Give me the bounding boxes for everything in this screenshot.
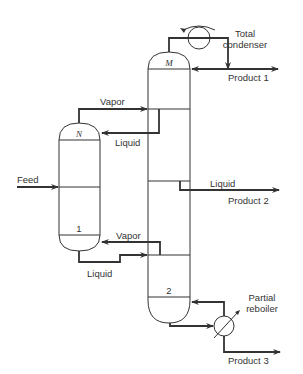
stage-m-label: M (164, 58, 173, 68)
vapor-bottom-stream (102, 242, 160, 255)
feed-label: Feed (17, 174, 39, 185)
liquid-top-label: Liquid (115, 137, 140, 148)
stage-2-label: 2 (166, 285, 171, 296)
vapor-top-label: Vapor (100, 96, 125, 107)
reboiler-label-2: reboiler (246, 303, 278, 314)
product2-label: Product 2 (228, 195, 269, 206)
distillation-diagram: Total condenser Product 1 M Vapor Liquid… (0, 0, 303, 374)
stage-n-label: N (75, 129, 83, 139)
liquid-side-label: Liquid (210, 178, 235, 189)
product1-label: Product 1 (228, 72, 269, 83)
reboiler-label-1: Partial (249, 292, 276, 303)
liquid-bottom-stream (79, 251, 147, 262)
vapor-bottom-label: Vapor (116, 230, 141, 241)
condenser-label-2: condenser (223, 39, 267, 50)
main-column (148, 52, 190, 323)
liquid-top-stream (102, 109, 159, 133)
liquid-bottom-label: Liquid (87, 268, 112, 279)
product3-label: Product 3 (228, 355, 269, 366)
condenser-label-1: Total (235, 28, 255, 39)
stage-1-label: 1 (76, 223, 81, 234)
vapor-top-stream (79, 109, 147, 123)
